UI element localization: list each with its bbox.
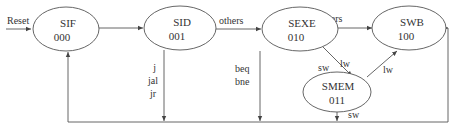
transition-label-lw: lw bbox=[340, 58, 351, 69]
state-name: SEXE bbox=[288, 17, 316, 29]
state-code: 100 bbox=[398, 30, 415, 42]
transition-label-lw-2: lw bbox=[383, 64, 394, 75]
transition-smem-swb: lw bbox=[367, 51, 397, 77]
transition-label-jr: jr bbox=[149, 88, 157, 99]
state-name: SID bbox=[173, 16, 191, 28]
transition-sexe-sif: beq bne bbox=[235, 51, 260, 121]
state-sid: SID 001 bbox=[144, 6, 216, 50]
transition-sid-sexe: others bbox=[216, 15, 261, 29]
state-name: SMEM bbox=[322, 80, 355, 92]
transition-label-j: j bbox=[152, 62, 156, 73]
state-code: 000 bbox=[54, 31, 71, 43]
state-code: 011 bbox=[329, 94, 345, 106]
state-name: SIF bbox=[60, 17, 76, 29]
reset-transition: Reset bbox=[6, 15, 31, 29]
state-sexe: SEXE 010 bbox=[262, 7, 338, 51]
state-sif: SIF 000 bbox=[33, 7, 99, 51]
transition-label-sw: sw bbox=[318, 62, 330, 73]
state-code: 001 bbox=[169, 30, 186, 42]
transition-sid-sif: j jal jr bbox=[147, 50, 164, 121]
state-swb: SWB 100 bbox=[372, 6, 446, 50]
state-code: 010 bbox=[288, 31, 305, 43]
reset-label: Reset bbox=[7, 15, 29, 26]
transition-label-beq: beq bbox=[235, 63, 249, 74]
state-smem: SMEM 011 bbox=[303, 72, 371, 112]
state-diagram: Reset others others j jal jr beq bne sw … bbox=[0, 0, 456, 132]
state-name: SWB bbox=[400, 16, 424, 28]
transition-label-others-1: others bbox=[219, 15, 244, 26]
transition-label-jal: jal bbox=[147, 75, 158, 86]
transition-label-bne: bne bbox=[235, 76, 250, 87]
